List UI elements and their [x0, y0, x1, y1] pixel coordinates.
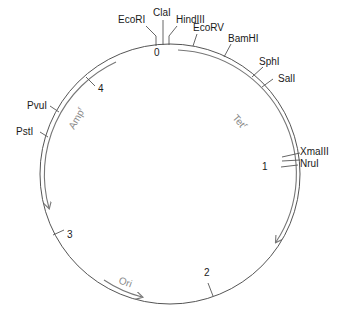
ecori-leader: [146, 26, 156, 46]
site-label-pvui: PvuI: [27, 100, 47, 111]
site-label-clai: ClaI: [153, 7, 171, 18]
gene-label-amp: Ampr: [65, 105, 87, 131]
site-label-sali: SalI: [278, 73, 295, 84]
kb-tick-2: [208, 283, 213, 296]
ecorv-leader: [193, 34, 197, 46]
site-label-bamhi: BamHI: [228, 33, 259, 44]
site-label-ecori: EcoRI: [118, 14, 145, 25]
site-label-xmaiii: XmaIII: [300, 146, 329, 157]
amp-gene-arrow: [44, 62, 116, 208]
kb-tick-3: [53, 230, 64, 235]
site-label-sphi: SphI: [259, 56, 280, 67]
kb-label-3: 3: [67, 229, 73, 240]
kb-tick-1: [281, 165, 298, 167]
sali-leader: [262, 79, 273, 87]
site-label-ecorv: EcoRV: [193, 22, 224, 33]
gene-label-tet: Tetr: [230, 112, 250, 132]
plasmid-map: EcoRI ClaI HindIII EcoRV BamHI SphI SalI…: [0, 0, 344, 316]
site-label-psti: PstI: [16, 126, 33, 137]
kb-label-2: 2: [204, 267, 210, 278]
nrui-leader: [282, 160, 300, 161]
bamhi-leader: [224, 44, 231, 57]
gene-label-ori: Ori: [117, 275, 133, 290]
kb-label-4: 4: [98, 83, 104, 94]
sphi-leader: [252, 67, 263, 77]
hindiii-leader: [169, 26, 177, 45]
kb-label-0: 0: [154, 47, 160, 58]
xmaiii-leader: [282, 153, 300, 157]
plasmid-ring: [40, 44, 300, 304]
site-label-nrui: NruI: [300, 158, 319, 169]
kb-label-1: 1: [262, 161, 268, 172]
